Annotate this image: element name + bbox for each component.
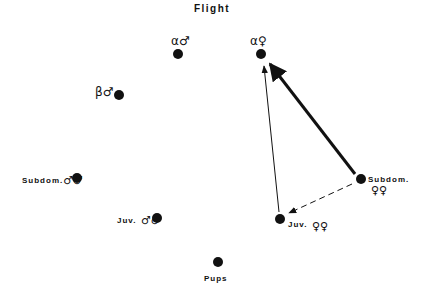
label-juv-females: Juv. ♀♀: [288, 213, 328, 231]
edge-dashed-subdom-females-to-juv-females: [289, 184, 352, 213]
label-alpha-male: α♂: [171, 34, 190, 48]
label-juv-males-text: Juv.: [117, 216, 136, 225]
node-alpha-female: [256, 49, 266, 59]
label-subdom-females-text: Subdom.: [368, 175, 409, 184]
female-symbols-icon: ♀♀: [371, 184, 387, 197]
label-beta-male: β♂: [95, 85, 113, 99]
diagram-canvas: [0, 0, 424, 293]
label-alpha-female: α♀: [250, 34, 267, 48]
node-juv-females: [275, 214, 285, 224]
node-subdom-females: [356, 174, 366, 184]
label-subdom-males-text: Subdom.: [22, 176, 63, 185]
label-subdom-males: Subdom.♂♂: [22, 170, 83, 188]
edge-thin-juv-females-to-alpha-female: [264, 66, 279, 212]
label-juv-males: Juv. ♂♂: [117, 210, 161, 228]
node-beta-male: [114, 90, 124, 100]
label-juv-females-text: Juv.: [288, 220, 307, 229]
label-pups: Pups: [204, 274, 228, 283]
edge-thick-subdom-females-to-alpha-female: [270, 64, 355, 174]
node-pups: [213, 257, 223, 267]
node-alpha-male: [173, 49, 183, 59]
female-symbols-icon: ♀♀: [312, 220, 328, 233]
male-symbols-icon: ♂♂: [141, 214, 161, 227]
male-symbols-icon: ♂♂: [63, 174, 83, 187]
